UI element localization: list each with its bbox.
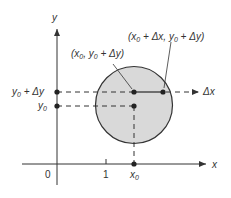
y0-label: y0 <box>37 100 47 112</box>
point-label-x0-y0-plus-dy: (x0, y0 + Δy) <box>71 48 124 60</box>
y-axis-point-y0-plus-dy <box>54 89 59 94</box>
point-x0-y0-plus-dy <box>131 89 136 94</box>
y-axis-point-y0 <box>54 103 59 108</box>
diagram-canvas: y x 0 1 x0 y0 y0 + Δy Δx (x0, y0 + Δy) (… <box>0 0 231 198</box>
y0-plus-dy-label: y0 + Δy <box>11 86 45 98</box>
x-axis-point-x0 <box>131 161 136 166</box>
delta-x-label: Δx <box>202 86 216 97</box>
point-x0-y0 <box>131 103 136 108</box>
point-label-x0-plus-dx-y0-plus-dy: (x0 + Δx, y0 + Δy) <box>128 31 204 43</box>
origin-label: 0 <box>45 169 51 180</box>
point-x0-plus-dx-y0-plus-dy <box>160 89 165 94</box>
tick-1-label: 1 <box>103 169 109 180</box>
y-axis-label: y <box>51 12 58 23</box>
leader-line-right <box>164 42 171 88</box>
x0-label: x0 <box>129 169 139 181</box>
x-axis-label: x <box>211 159 218 170</box>
